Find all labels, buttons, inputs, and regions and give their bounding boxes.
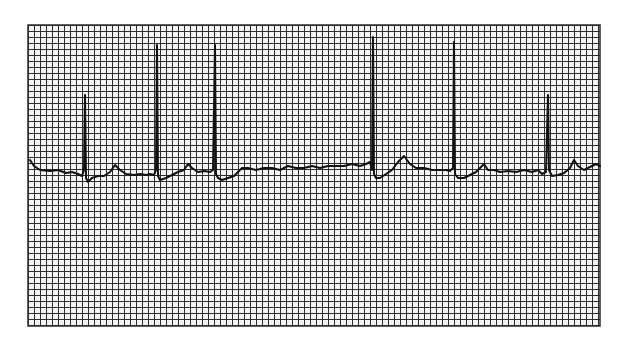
grid-paper	[28, 25, 600, 326]
ecg-strip	[0, 0, 626, 347]
